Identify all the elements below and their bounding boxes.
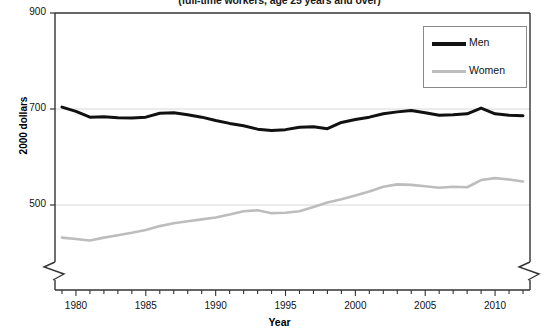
gridlines <box>55 109 530 205</box>
legend: Men Women <box>423 26 527 88</box>
chart-container: (full-time workers, age 25 years and ove… <box>0 0 559 333</box>
data-series <box>62 107 523 240</box>
legend-item-men: Men <box>432 36 522 50</box>
legend-swatch-women <box>432 70 466 73</box>
legend-label-men: Men <box>469 36 489 48</box>
legend-swatch-men <box>432 42 466 46</box>
legend-label-women: Women <box>469 64 505 76</box>
legend-item-women: Women <box>432 64 522 78</box>
